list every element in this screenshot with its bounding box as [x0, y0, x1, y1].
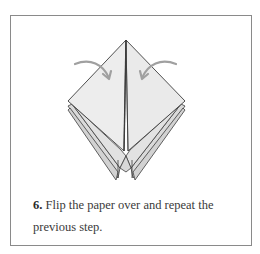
step-number: 6.: [33, 198, 42, 212]
step-caption: 6. Flip the paper over and repeat the pr…: [33, 194, 233, 238]
caption-line-2: previous step.: [33, 220, 102, 234]
caption-line-1: Flip the paper over and repeat the: [46, 198, 214, 212]
